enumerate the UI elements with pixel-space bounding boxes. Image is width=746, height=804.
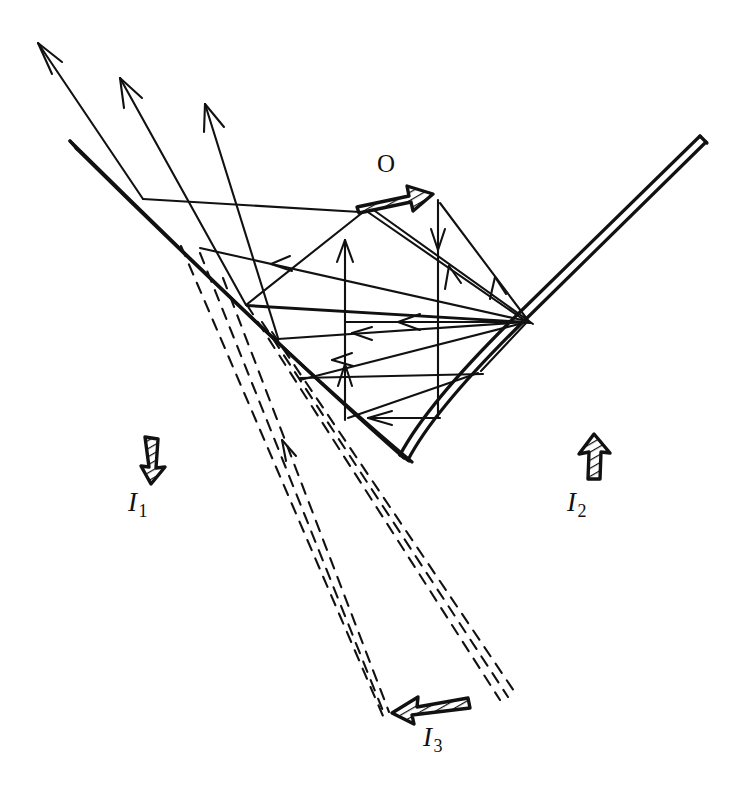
virtual-ray-bundle-dashed [181, 246, 516, 716]
virtual-ray-6 [272, 332, 516, 694]
image-arrow-I2 [579, 434, 610, 479]
image-arrow-I3 [392, 697, 470, 724]
outgoing-ray-1 [38, 43, 143, 199]
chevron-upper-left [271, 256, 290, 264]
image-arrow-I1 [141, 437, 165, 484]
object-arrow-O [357, 186, 433, 213]
image-label-I2-sub: 2 [578, 501, 587, 521]
object-label-base: O [377, 150, 396, 177]
image-label-I2: I2 [567, 487, 587, 522]
ray-bundle-solid [38, 43, 533, 425]
image-label-I3-sub: 3 [434, 736, 443, 756]
object-label-O: O [377, 150, 397, 183]
ray-diagram-canvas [0, 0, 746, 804]
image-label-I2-base: I [567, 487, 577, 517]
image-label-I1-sub: 1 [139, 501, 148, 521]
right-mirror [400, 136, 707, 461]
virtual-ray-4 [247, 305, 500, 700]
o-ray-right-1 [362, 208, 527, 322]
arrowhead-3a [204, 104, 205, 132]
image-label-I3: I3 [423, 722, 443, 757]
virtual-ray-3 [223, 278, 389, 712]
virtual-ray-5 [262, 322, 508, 697]
image-label-I3-base: I [423, 722, 433, 752]
image-label-I1-base: I [128, 487, 138, 517]
outgoing-ray-3 [205, 104, 278, 338]
virtual-ray-1 [181, 246, 383, 716]
image-label-I1: I1 [128, 487, 148, 522]
